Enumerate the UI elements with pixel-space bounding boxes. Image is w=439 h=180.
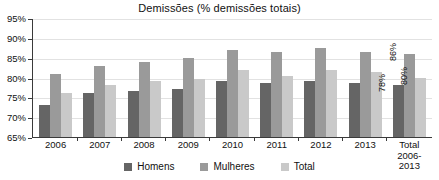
- bar-homens-2006: [39, 105, 50, 137]
- bar-homens-total-2006-2013: 78%: [393, 85, 404, 137]
- y-axis-tick: [28, 59, 32, 60]
- chart-legend: HomensMulheresTotal: [0, 161, 439, 172]
- legend-item-homens[interactable]: Homens: [124, 161, 174, 172]
- bar-mulheres-2010: [227, 50, 238, 137]
- y-axis-tick: [28, 118, 32, 119]
- bar-mulheres-2011: [271, 52, 282, 137]
- bar-mulheres-2009: [183, 58, 194, 137]
- bar-homens-2008: [128, 91, 139, 137]
- bar-group: [34, 19, 78, 137]
- bar-total-2011: [282, 76, 293, 137]
- y-axis: 95%90%85%80%75%70%65%: [0, 19, 30, 138]
- bar-group: [78, 19, 122, 137]
- y-axis-tick-label: 85%: [7, 54, 26, 64]
- y-axis-tick-label: 90%: [7, 34, 26, 44]
- bar-mulheres-2008: [139, 62, 150, 137]
- y-axis-tick: [28, 39, 32, 40]
- y-axis-tick: [28, 19, 32, 20]
- y-axis-tick-label: 95%: [7, 14, 26, 24]
- legend-item-total[interactable]: Total: [281, 161, 315, 172]
- bar-groups: 78%86%80%: [34, 19, 432, 137]
- chart-title: Demissões (% demissões totais): [0, 2, 439, 15]
- legend-label: Homens: [137, 161, 174, 172]
- bar-homens-2012: [304, 81, 315, 137]
- legend-swatch-icon: [281, 163, 289, 171]
- bar-homens-2013: [349, 83, 360, 137]
- bar-total-2007: [105, 85, 116, 137]
- bar-mulheres-2007: [94, 66, 105, 137]
- bar-mulheres-2013: [360, 52, 371, 137]
- legend-label: Mulheres: [213, 161, 254, 172]
- legend-item-mulheres[interactable]: Mulheres: [200, 161, 254, 172]
- bar-value-label: 80%: [411, 66, 420, 84]
- y-axis-tick: [28, 79, 32, 80]
- bar-total-2009: [194, 79, 205, 137]
- bar-chart: Demissões (% demissões totais) 95%90%85%…: [0, 0, 439, 180]
- bar-total-2012: [326, 70, 337, 137]
- bar-homens-2011: [260, 83, 271, 137]
- bar-mulheres-2012: [315, 48, 326, 137]
- legend-swatch-icon: [200, 163, 208, 171]
- bar-group: [122, 19, 166, 137]
- bar-total-2008: [150, 81, 161, 137]
- y-axis-tick-label: 75%: [7, 93, 26, 103]
- y-axis-tick-label: 80%: [7, 74, 26, 84]
- legend-swatch-icon: [124, 163, 132, 171]
- bar-group: [166, 19, 210, 137]
- bar-mulheres-2006: [50, 74, 61, 137]
- y-axis-tick-label: 70%: [7, 113, 26, 123]
- y-axis-tick: [28, 98, 32, 99]
- bar-homens-2007: [83, 93, 94, 137]
- bar-group: 78%86%80%: [387, 19, 431, 137]
- bar-group: [299, 19, 343, 137]
- bar-total-total-2006-2013: 80%: [415, 78, 426, 138]
- legend-label: Total: [294, 161, 315, 172]
- bar-value-label: 78%: [389, 74, 398, 92]
- bar-total-2006: [61, 93, 72, 137]
- bar-total-2010: [238, 70, 249, 137]
- bar-homens-2010: [216, 81, 227, 137]
- y-axis-tick: [28, 138, 32, 139]
- bar-group: [210, 19, 254, 137]
- bar-homens-2009: [172, 89, 183, 137]
- bar-value-label: 86%: [400, 43, 409, 61]
- bar-group: [255, 19, 299, 137]
- y-axis-tick-label: 65%: [7, 133, 26, 143]
